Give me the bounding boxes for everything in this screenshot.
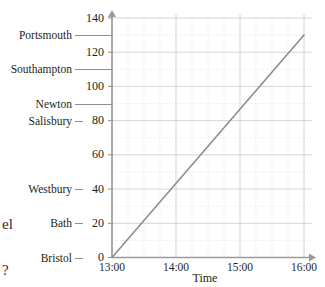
place-label-connector [75, 223, 83, 224]
y-tick-label: 60 [78, 148, 104, 160]
chart-plot-area [0, 0, 325, 287]
place-label-connector [75, 104, 112, 105]
place-label-connector [75, 69, 112, 70]
y-tick-label: 120 [78, 46, 104, 58]
place-label-bath: Bath [50, 217, 72, 229]
place-label-portsmouth: Portsmouth [19, 29, 72, 41]
place-label-southampton: Southampton [11, 63, 72, 75]
grid-major [112, 14, 312, 258]
y-tick-label: 140 [78, 12, 104, 24]
place-label-connector [75, 35, 112, 36]
journey-line [112, 35, 304, 257]
x-axis-title: Time [145, 271, 265, 286]
grid-minor [112, 14, 312, 258]
place-label-connector [75, 189, 83, 190]
place-label-newton: Newton [36, 98, 72, 110]
place-label-bristol: Bristol [41, 252, 72, 264]
place-label-connector [75, 121, 83, 122]
place-label-connector [75, 258, 83, 259]
travel-graph-figure: el ? 020406080100120140 BristolBathWestb… [0, 0, 325, 287]
y-tick-label: 100 [78, 80, 104, 92]
x-tick-label: 13:00 [90, 261, 134, 273]
place-label-salisbury: Salisbury [29, 115, 72, 127]
place-label-westbury: Westbury [28, 183, 72, 195]
x-tick-label: 16:00 [282, 261, 325, 273]
